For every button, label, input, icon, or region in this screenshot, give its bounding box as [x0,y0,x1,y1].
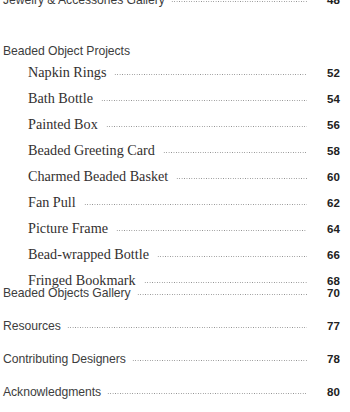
toc-entry-title: Jewelry & Accessories Gallery [3,0,171,7]
toc-dot-leader [84,195,307,207]
toc-entry-title: Napkin Rings [28,64,114,81]
toc-entry-title: Acknowledgments [3,385,107,399]
toc-entry-title: Fan Pull [28,194,84,211]
toc-page-number: 70 [307,287,340,299]
toc-entry[interactable]: Fan Pull62 [0,194,350,212]
toc-entry-title: Beaded Greeting Card [28,142,163,159]
toc-entry-title: Picture Frame [28,220,116,237]
toc-entry-title: Beaded Objects Gallery [3,286,137,300]
toc-dot-leader [101,91,307,103]
toc-dot-leader [176,169,307,181]
toc-entry[interactable]: Jewelry & Accessories Gallery48 [0,0,350,10]
table-of-contents: Jewelry & Accessories Gallery48Beaded Ob… [0,0,350,412]
toc-entry[interactable]: Painted Box56 [0,116,350,134]
toc-entry[interactable]: Beaded Greeting Card58 [0,142,350,160]
toc-entry[interactable]: Beaded Objects Gallery70 [0,285,350,303]
toc-entry[interactable]: Bead-wrapped Bottle66 [0,246,350,264]
toc-page-number: 77 [307,320,340,332]
toc-entry-title: Bath Bottle [28,90,101,107]
toc-dot-leader [137,285,307,297]
toc-entry[interactable]: Acknowledgments80 [0,384,350,402]
toc-entry[interactable]: Contributing Designers78 [0,351,350,369]
toc-entry[interactable]: Napkin Rings52 [0,64,350,82]
toc-dot-leader [116,221,307,233]
toc-entry[interactable]: Picture Frame64 [0,220,350,238]
toc-page-number: 52 [307,67,340,79]
toc-page-number: 48 [307,0,340,6]
toc-entry[interactable]: Charmed Beaded Basket60 [0,168,350,186]
toc-dot-leader [132,351,307,363]
toc-entry-title: Charmed Beaded Basket [28,168,176,185]
toc-dot-leader [107,384,307,396]
toc-entry-title: Resources [3,319,67,333]
toc-entry-title: Painted Box [28,116,106,133]
toc-entry-title: Contributing Designers [3,352,132,366]
toc-dot-leader [157,247,307,259]
toc-dot-leader [144,273,307,285]
toc-page-number: 64 [307,223,340,235]
toc-page-number: 54 [307,93,340,105]
toc-entry[interactable]: Bath Bottle54 [0,90,350,108]
toc-entry-title: Bead-wrapped Bottle [28,246,157,263]
toc-page-number: 62 [307,197,340,209]
toc-page-number: 66 [307,249,340,261]
toc-dot-leader [163,143,307,155]
toc-section-heading: Beaded Object Projects [3,44,130,58]
toc-dot-leader [171,0,307,4]
toc-dot-leader [114,65,307,77]
toc-page-number: 60 [307,171,340,183]
toc-page-number: 78 [307,353,340,365]
toc-entry[interactable]: Resources77 [0,318,350,336]
toc-page-number: 58 [307,145,340,157]
toc-page-number: 56 [307,119,340,131]
toc-dot-leader [67,318,307,330]
toc-page-number: 80 [307,386,340,398]
toc-dot-leader [106,117,307,129]
